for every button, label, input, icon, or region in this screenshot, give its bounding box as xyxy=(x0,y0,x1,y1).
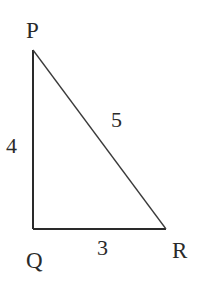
vertex-label-q: Q xyxy=(26,248,43,273)
vertex-label-p: P xyxy=(26,18,39,43)
vertex-label-r: R xyxy=(172,238,188,263)
side-label-qr: 3 xyxy=(97,235,108,260)
side-pr xyxy=(33,50,166,229)
side-label-pr: 5 xyxy=(111,107,122,132)
side-label-pq: 4 xyxy=(6,133,17,158)
triangle-diagram: P Q R 4 5 3 xyxy=(0,0,199,283)
